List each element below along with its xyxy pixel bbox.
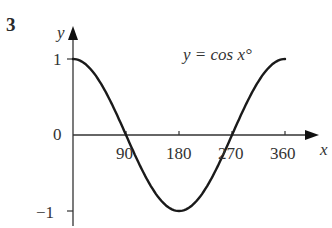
x-tick-label-180: 180 bbox=[166, 144, 192, 163]
y-tick-label-1: 1 bbox=[53, 50, 62, 69]
x-tick-label-360: 360 bbox=[270, 144, 296, 163]
y-axis-label: y bbox=[55, 23, 65, 42]
y-tick-label-neg1: −1 bbox=[36, 203, 54, 222]
y-tick-label-0: 0 bbox=[53, 125, 62, 144]
x-axis-arrow-icon bbox=[305, 130, 319, 140]
x-tick-label-270: 270 bbox=[218, 144, 244, 163]
cosine-graph: y x 1 0 −1 90 180 270 360 y = cos x° bbox=[0, 0, 332, 228]
x-tick-label-90: 90 bbox=[116, 144, 133, 163]
equation-label: y = cos x° bbox=[181, 45, 252, 64]
y-axis-arrow-icon bbox=[68, 26, 78, 40]
x-axis-label: x bbox=[319, 140, 328, 159]
